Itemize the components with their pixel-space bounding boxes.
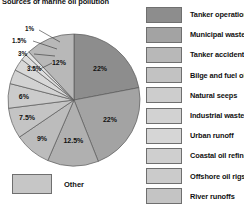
legend-item[interactable]: Industrial waste <box>146 107 244 124</box>
pie-slice-label: 7.5% <box>19 114 36 121</box>
legend-swatch <box>146 188 182 204</box>
legend-label: Tanker accidents <box>190 50 244 59</box>
legend-item[interactable]: Coastal oil refining <box>146 147 244 164</box>
pie-slice-label: 22% <box>93 65 108 72</box>
legend-item[interactable]: Bilge and fuel oils <box>146 67 244 84</box>
legend-label: Industrial waste <box>190 111 244 120</box>
legend-item[interactable]: Tanker operations <box>146 6 244 23</box>
pie-slice-label: 3% <box>18 50 28 57</box>
legend-label: Offshore oil rigs <box>190 172 244 181</box>
chart-title: Sources of marine oil pollution <box>2 0 109 6</box>
legend-item[interactable]: River runoffs <box>146 188 235 205</box>
legend-item[interactable]: Tanker accidents <box>146 46 244 63</box>
pie-slice-label: 6% <box>19 93 30 100</box>
pie-slice-label: 9% <box>37 135 48 142</box>
legend-swatch <box>146 168 182 184</box>
pie-chart: 22%22%12.5%9%7.5%6%3.5%3%1.5%1%12% <box>0 8 146 188</box>
legend-swatch <box>146 47 182 63</box>
legend-label: Tanker operations <box>190 10 244 19</box>
legend-swatch <box>146 128 182 144</box>
legend-item[interactable]: Urban runoff <box>146 127 234 144</box>
pie-slice-label: 1% <box>25 25 35 32</box>
legend-label: Coastal oil refining <box>190 151 244 160</box>
legend-label: Natural seeps <box>190 91 237 100</box>
legend: Tanker operationsMunicipal wastesTanker … <box>146 6 244 209</box>
legend-item[interactable]: Municipal wastes <box>146 26 244 43</box>
legend-label: Urban runoff <box>190 131 234 140</box>
legend-swatch-other <box>12 174 52 194</box>
legend-label-other: Other <box>64 180 84 189</box>
pie-slice-label: 12.5% <box>63 137 84 144</box>
legend-swatch <box>146 7 182 23</box>
legend-swatch <box>146 87 182 103</box>
legend-item[interactable]: Natural seeps <box>146 87 237 104</box>
legend-label: River runoffs <box>190 192 235 201</box>
legend-label: Municipal wastes <box>190 30 244 39</box>
legend-swatch <box>146 108 182 124</box>
pie-slice-label: 1.5% <box>12 37 27 44</box>
legend-label: Bilge and fuel oils <box>190 71 244 80</box>
legend-swatch <box>146 67 182 83</box>
legend-swatch <box>146 148 182 164</box>
legend-swatch <box>146 27 182 43</box>
pie-slice-label: 3.5% <box>27 65 42 72</box>
legend-item-other[interactable]: Other <box>12 174 84 194</box>
legend-item[interactable]: Offshore oil rigs <box>146 168 244 185</box>
pie-slice-label: 12% <box>52 59 67 66</box>
pie-slice-label: 22% <box>103 116 118 123</box>
